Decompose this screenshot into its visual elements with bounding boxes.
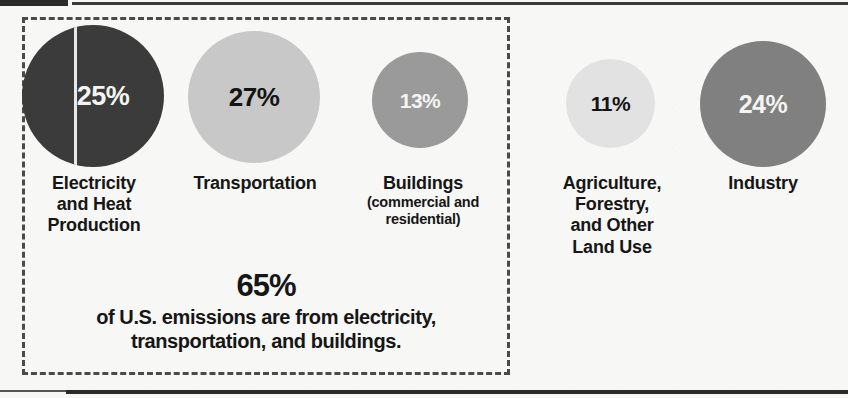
bubble-agriculture-forestry-and-other-land-use: 11% (566, 59, 655, 148)
top-rule-thin (72, 2, 848, 5)
bubble-percent-buildings: 13% (400, 90, 441, 111)
summary-callout: 65% of U.S. emissions are from electrici… (30, 270, 502, 353)
label-buildings-sub1: (commercial and (350, 194, 496, 211)
label-agriculture-line1: Agriculture, (538, 173, 686, 194)
label-industry: Industry (692, 173, 834, 194)
summary-line2: transportation, and buildings. (30, 329, 502, 353)
summary-line1: of U.S. emissions are from electricity, (30, 305, 502, 329)
bubble-industry: 24% (700, 41, 826, 167)
top-rule-thick (0, 0, 68, 6)
label-electricity-and-heat-production: Electricity and Heat Production (20, 173, 168, 237)
emissions-infographic: 25% 27% 13% 11% 24% Electricity and Heat… (0, 0, 848, 398)
label-electricity-line1: Electricity (20, 173, 168, 194)
bubble-electricity-and-heat-production: 25% (22, 25, 164, 167)
label-agriculture-line3: and Other (538, 215, 686, 236)
label-agriculture-line4: Land Use (538, 237, 686, 258)
label-agriculture-line2: Forestry, (538, 194, 686, 215)
label-transportation: Transportation (180, 173, 330, 194)
label-transportation-line1: Transportation (180, 173, 330, 194)
label-agriculture-forestry-and-other-land-use: Agriculture, Forestry, and Other Land Us… (538, 173, 686, 258)
bubble-percent-electricity: 25% (77, 83, 130, 110)
bottom-rule-thin (0, 390, 66, 392)
label-buildings: Buildings (commercial and residential) (350, 173, 496, 228)
bottom-rule-thick (66, 390, 848, 394)
bubble-transportation: 27% (188, 31, 320, 163)
bubble-percent-industry: 24% (739, 92, 788, 117)
label-buildings-line1: Buildings (350, 173, 496, 194)
label-industry-line1: Industry (692, 173, 834, 194)
label-buildings-sub2: residential) (350, 211, 496, 228)
bubble-percent-transportation: 27% (229, 84, 280, 110)
bubble-buildings: 13% (372, 52, 468, 148)
label-electricity-line3: Production (20, 215, 168, 236)
summary-percent: 65% (30, 270, 502, 303)
label-electricity-line2: and Heat (20, 194, 168, 215)
bubble-percent-agriculture: 11% (591, 93, 630, 114)
